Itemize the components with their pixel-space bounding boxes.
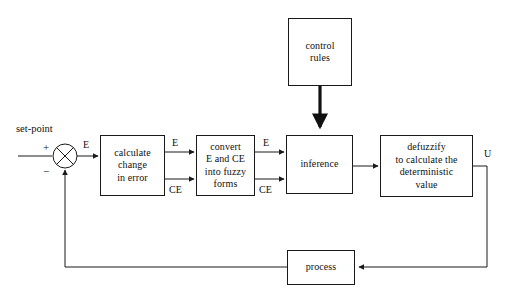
ce-signal-1-label: CE [169, 184, 182, 195]
ce-signal-2-label: CE [259, 184, 272, 195]
diagram-canvas: control rules calculate change in error … [0, 0, 509, 295]
calculate-change-box[interactable]: calculate change in error [100, 135, 165, 196]
minus-sign-label: − [43, 166, 49, 177]
defuzzify-box[interactable]: defuzzify to calculate the deterministic… [380, 135, 473, 197]
e-signal-2-label: E [263, 137, 269, 148]
error-signal-label: E [83, 139, 89, 150]
inference-box[interactable]: inference [286, 135, 353, 194]
control-rules-box[interactable]: control rules [288, 18, 352, 86]
process-box[interactable]: process [287, 250, 355, 285]
plus-sign-label: + [43, 142, 49, 153]
set-point-label: set-point [16, 123, 53, 134]
u-output-label: U [484, 148, 491, 159]
convert-fuzzy-box[interactable]: convert E and CE into fuzzy forms [196, 135, 255, 196]
e-signal-1-label: E [172, 137, 178, 148]
